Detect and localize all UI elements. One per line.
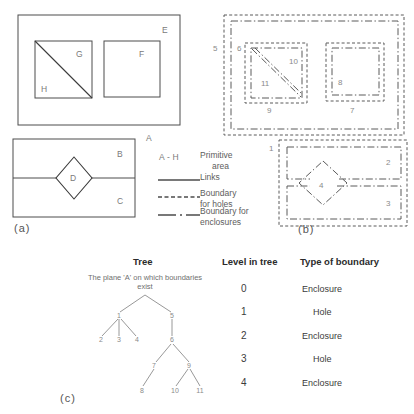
label-11: 11 xyxy=(261,79,269,88)
label-G: G xyxy=(76,49,83,59)
label-F: F xyxy=(139,49,144,59)
label-B: B xyxy=(117,149,123,159)
label-9: 9 xyxy=(267,106,271,115)
label-8: 8 xyxy=(338,78,342,87)
type-value: Enclosure xyxy=(302,331,342,341)
type-value: Hole xyxy=(313,307,332,317)
label-E: E xyxy=(162,25,168,35)
label-D: D xyxy=(70,173,76,183)
level-value: 1 xyxy=(241,306,247,317)
panel-a-top-drawing xyxy=(5,8,205,133)
svg-text:8: 8 xyxy=(140,387,144,394)
tree-root-caption: The plane 'A' on which boundaries exist xyxy=(85,273,205,292)
tree-diagram: 1 5 2 3 4 6 7 9 8 10 11 xyxy=(40,292,240,402)
legend-key-primitive-area: A - H xyxy=(159,152,179,162)
label-1: 1 xyxy=(269,144,273,153)
svg-text:6: 6 xyxy=(170,336,174,343)
legend-swatch-enclosure-boundary xyxy=(158,212,202,218)
column-header-type: Type of boundary xyxy=(300,256,379,267)
svg-text:5: 5 xyxy=(170,312,174,319)
label-H: H xyxy=(41,84,47,94)
label-5: 5 xyxy=(213,44,217,53)
label-2: 2 xyxy=(386,158,390,167)
label-C: C xyxy=(117,196,123,206)
column-header-tree: Tree xyxy=(133,256,153,267)
svg-text:3: 3 xyxy=(117,336,121,343)
label-plane-A: A xyxy=(146,133,152,143)
caption-c: (c) xyxy=(60,392,76,404)
legend-swatch-links xyxy=(158,177,202,183)
level-value: 0 xyxy=(241,283,247,294)
label-3: 3 xyxy=(386,199,390,208)
type-value: Hole xyxy=(313,354,332,364)
svg-text:7: 7 xyxy=(152,362,156,369)
label-7: 7 xyxy=(350,106,354,115)
svg-text:2: 2 xyxy=(99,336,103,343)
label-4: 4 xyxy=(319,181,323,190)
type-value: Enclosure xyxy=(302,284,342,294)
label-6: 6 xyxy=(237,44,241,53)
column-header-level: Level in tree xyxy=(222,256,277,267)
caption-b: (b) xyxy=(298,223,314,235)
level-value: 4 xyxy=(241,377,247,388)
caption-a: (a) xyxy=(14,222,30,234)
svg-text:4: 4 xyxy=(135,336,139,343)
panel-b: 5 6 10 11 9 8 7 1 2 4 3 (b) xyxy=(207,0,414,245)
type-value: Enclosure xyxy=(302,378,342,388)
panel-b-top-drawing xyxy=(207,8,414,143)
legend-swatch-hole-boundary xyxy=(158,194,202,200)
svg-text:11: 11 xyxy=(196,387,203,394)
svg-text:9: 9 xyxy=(187,362,191,369)
level-value: 3 xyxy=(241,353,247,364)
label-10: 10 xyxy=(289,57,298,66)
panel-c: Tree Level in tree Type of boundary The … xyxy=(0,248,414,414)
level-value: 2 xyxy=(241,330,247,341)
svg-text:10: 10 xyxy=(171,387,179,394)
svg-text:1: 1 xyxy=(117,312,121,319)
